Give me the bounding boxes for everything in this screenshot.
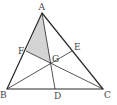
triangle-diagram: A B C D E F G	[0, 0, 117, 105]
label-D: D	[54, 91, 61, 101]
label-C: C	[104, 90, 111, 100]
label-F: F	[18, 46, 24, 56]
median-CF	[26, 51, 103, 89]
label-B: B	[0, 90, 7, 100]
label-G: G	[52, 54, 59, 64]
label-E: E	[74, 42, 81, 52]
label-A: A	[38, 2, 46, 12]
